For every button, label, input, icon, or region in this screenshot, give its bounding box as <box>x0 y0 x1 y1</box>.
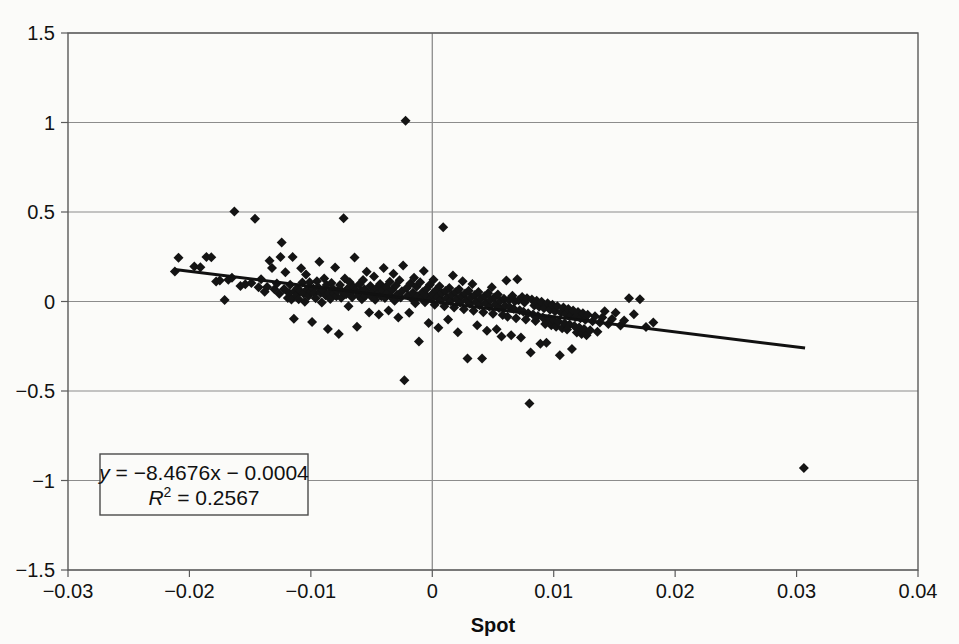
equation-body: = −8.4676x − 0.0004 <box>110 461 309 484</box>
data-point-marker <box>350 252 360 262</box>
data-point-marker <box>463 353 473 363</box>
data-point-marker <box>330 262 340 272</box>
data-point-marker <box>453 327 463 337</box>
x-tick-label: 0.04 <box>899 580 938 602</box>
data-point-marker <box>399 375 409 385</box>
data-point-marker <box>276 252 286 262</box>
data-point-marker <box>277 237 287 247</box>
data-point-marker <box>352 322 362 332</box>
r-squared-value: = 0.2567 <box>171 486 259 509</box>
y-tick-label: 1 <box>44 112 55 134</box>
data-point-marker <box>344 301 354 311</box>
data-point-marker <box>443 315 453 325</box>
x-tick-label: −0.02 <box>164 580 215 602</box>
data-point-marker <box>448 271 458 281</box>
data-point-marker <box>289 314 299 324</box>
scatter-points <box>170 116 809 473</box>
x-tick-label: 0.01 <box>534 580 573 602</box>
x-tick-label: 0 <box>427 580 438 602</box>
data-point-marker <box>288 252 298 262</box>
y-tick-label: 0.5 <box>27 201 55 223</box>
data-point-marker <box>280 267 290 277</box>
y-tick-label: −1.5 <box>16 559 55 581</box>
r-squared-symbol: R <box>148 486 163 509</box>
data-point-marker <box>314 257 324 267</box>
data-point-marker <box>541 338 551 348</box>
data-point-marker <box>438 222 448 232</box>
data-point-marker <box>170 266 180 276</box>
data-point-marker <box>229 206 239 216</box>
data-point-marker <box>174 253 184 263</box>
data-point-marker <box>592 327 602 337</box>
data-point-marker <box>516 332 526 342</box>
data-point-marker <box>472 320 482 330</box>
x-tick-label: −0.03 <box>43 580 94 602</box>
data-point-marker <box>629 309 639 319</box>
x-tick-label: 0.02 <box>656 580 695 602</box>
data-point-marker <box>250 214 260 224</box>
data-point-marker <box>555 350 565 360</box>
data-point-marker <box>482 326 492 336</box>
x-axis-tick-labels: −0.03−0.02−0.0100.010.020.030.04 <box>43 580 938 602</box>
y-tick-marks <box>61 33 68 570</box>
trendline <box>175 269 805 348</box>
x-axis-title: Spot <box>471 614 516 636</box>
data-point-marker <box>477 354 487 364</box>
x-tick-label: 0.03 <box>777 580 816 602</box>
data-point-marker <box>524 399 534 409</box>
data-point-marker <box>512 274 522 284</box>
equation-line: y = −8.4676x − 0.0004 <box>97 461 309 484</box>
data-point-marker <box>307 317 317 327</box>
data-point-marker <box>492 324 502 334</box>
scatter-chart: 1.510.50−0.5−1−1.5−0.03−0.02−0.0100.010.… <box>0 0 959 644</box>
data-point-marker <box>374 310 384 320</box>
data-point-marker <box>506 330 516 340</box>
data-point-marker <box>497 332 507 342</box>
data-point-marker <box>433 323 443 333</box>
data-point-marker <box>414 337 424 347</box>
data-point-marker <box>334 329 344 339</box>
x-tick-marks <box>68 570 918 577</box>
data-point-marker <box>379 263 389 273</box>
data-point-marker <box>384 305 394 315</box>
r-squared-exponent: 2 <box>164 484 172 500</box>
data-point-marker <box>526 348 536 358</box>
y-axis-tick-labels: 1.510.50−0.5−1−1.5 <box>16 22 55 581</box>
data-point-marker <box>323 324 333 334</box>
x-tick-label: −0.01 <box>286 580 337 602</box>
data-point-marker <box>364 308 374 318</box>
data-point-marker <box>404 308 414 318</box>
data-point-marker <box>398 261 408 271</box>
data-point-marker <box>195 262 205 272</box>
chart-page: 1.510.50−0.5−1−1.5−0.03−0.02−0.0100.010.… <box>0 0 959 644</box>
y-tick-label: 0 <box>44 291 55 313</box>
data-point-marker <box>339 213 349 223</box>
y-tick-label: −0.5 <box>16 380 55 402</box>
data-point-marker <box>401 116 411 126</box>
data-point-marker <box>567 344 577 354</box>
data-point-marker <box>635 294 645 304</box>
y-tick-label: 1.5 <box>27 22 55 44</box>
data-point-marker <box>799 463 809 473</box>
y-tick-label: −1 <box>32 470 55 492</box>
data-point-marker <box>501 275 511 285</box>
data-point-marker <box>419 266 429 276</box>
data-point-marker <box>220 295 230 305</box>
data-point-marker <box>393 313 403 323</box>
